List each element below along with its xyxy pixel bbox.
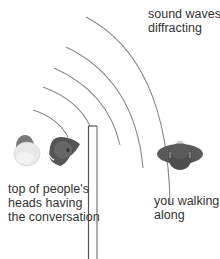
sound-waves [33, 17, 170, 205]
wave-arc-5 [86, 17, 170, 205]
wave-arc-2 [43, 87, 90, 126]
listener-label: you walking along [154, 194, 219, 222]
wave-arc-1 [33, 110, 68, 137]
speakers-label: top of people's heads having the convers… [8, 182, 100, 224]
speaker-head-light-icon [14, 135, 40, 166]
listener-head-icon [157, 141, 203, 171]
waves-label: sound waves diffracting [148, 7, 220, 35]
speaker-head-dark-icon [47, 137, 80, 166]
wave-arc-3 [54, 68, 120, 145]
